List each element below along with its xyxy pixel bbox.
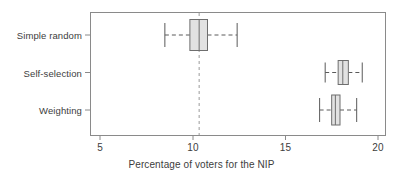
x-tick-label-15: 15 — [280, 142, 291, 153]
x-tick-label-20: 20 — [372, 142, 383, 153]
x-tick-label-5: 5 — [97, 142, 103, 153]
x-tick-label-10: 10 — [187, 142, 198, 153]
x-axis-title: Percentage of voters for the NIP — [0, 159, 403, 170]
y-axis-label-simple-random: Simple random — [4, 30, 82, 41]
y-axis-label-self-selection: Self-selection — [4, 67, 82, 78]
y-axis-label-weighting: Weighting — [4, 105, 82, 116]
boxplot-figure: Simple random Self-selection Weighting 5… — [0, 0, 403, 182]
plot-canvas — [0, 0, 403, 182]
